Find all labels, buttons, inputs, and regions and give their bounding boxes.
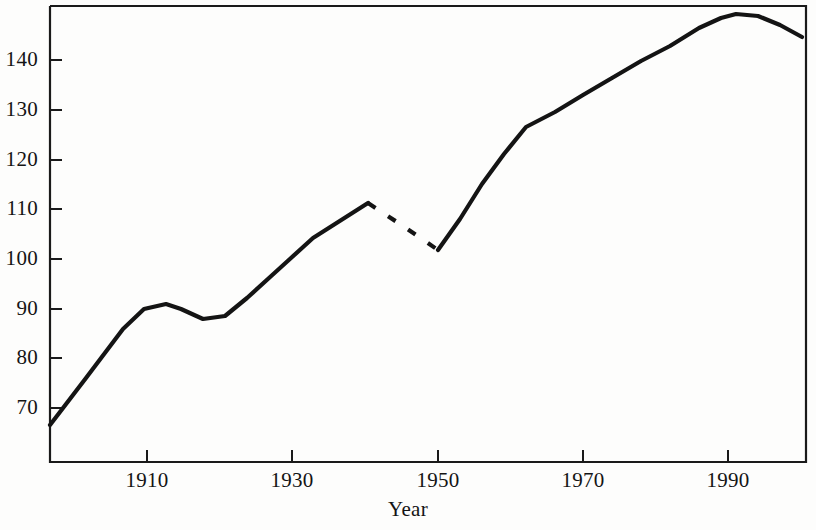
y-axis-label-110: 110 bbox=[0, 198, 38, 219]
y-axis-label-70: 70 bbox=[0, 397, 38, 418]
x-axis-label-1950: 1950 bbox=[388, 470, 488, 491]
x-axis-label-1930: 1930 bbox=[242, 470, 342, 491]
x-axis-ticks bbox=[147, 450, 728, 462]
chart-canvas bbox=[0, 0, 816, 530]
y-axis-label-100: 100 bbox=[0, 248, 38, 269]
x-axis-label-1990: 1990 bbox=[678, 470, 778, 491]
x-axis-title: Year bbox=[0, 497, 816, 522]
y-axis-label-120: 120 bbox=[0, 149, 38, 170]
y-axis-label-130: 130 bbox=[0, 99, 38, 120]
y-axis-ticks bbox=[50, 60, 62, 408]
x-axis-label-1910: 1910 bbox=[97, 470, 197, 491]
y-axis-label-90: 90 bbox=[0, 298, 38, 319]
plot-frame bbox=[50, 6, 806, 462]
data-line-segment-dashed bbox=[368, 203, 438, 250]
data-line-segment-2 bbox=[438, 14, 802, 250]
plot-border bbox=[50, 6, 806, 462]
data-line-segment-1 bbox=[50, 203, 368, 425]
y-axis-label-80: 80 bbox=[0, 347, 38, 368]
line-chart: 140 130 120 110 100 90 80 70 1910 1930 1… bbox=[0, 0, 816, 530]
y-axis-label-140: 140 bbox=[0, 49, 38, 70]
x-axis-label-1970: 1970 bbox=[533, 470, 633, 491]
